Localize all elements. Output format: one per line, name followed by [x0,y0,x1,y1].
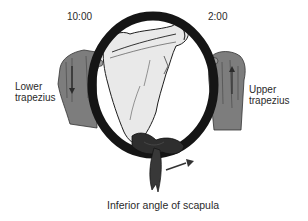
arrow-right-icon [166,159,194,170]
upper-trapezius-label: Upper trapezius [249,84,290,106]
knot-icon [132,133,184,192]
illustration [0,0,308,221]
upper-trapezius-line2: trapezius [249,95,290,106]
lower-trapezius-line2: trapezius [15,92,56,103]
lower-trapezius-label: Lower trapezius [15,81,56,103]
scapula-icon [103,23,188,143]
lower-trapezius-line1: Lower [15,81,56,92]
clock-label-2: 2:00 [208,11,227,22]
scapula-rotation-figure: 10:00 2:00 Lower trapezius Upper trapezi… [0,0,308,221]
upper-trapezius-line1: Upper [249,84,290,95]
clock-label-10: 10:00 [67,11,92,22]
figure-caption: Inferior angle of scapula [107,200,219,211]
